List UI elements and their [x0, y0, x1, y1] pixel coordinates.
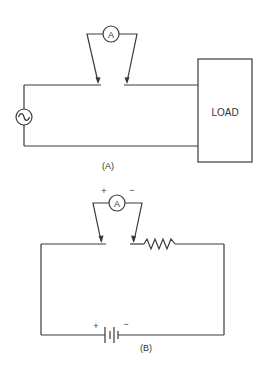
arrow-down-icon	[131, 236, 136, 244]
ammeter-b: A + −	[93, 185, 142, 243]
arrow-down-icon	[96, 77, 101, 84]
ammeter-a-left-lead	[87, 34, 103, 82]
circuit-a: LOAD A (A)	[16, 26, 252, 171]
caption-a: (A)	[102, 161, 114, 171]
arrow-down-icon	[125, 77, 130, 84]
caption-b: (B)	[140, 343, 152, 353]
circuit-b: + − A + − (B)	[41, 185, 224, 353]
ammeter-a-label: A	[108, 30, 114, 40]
ammeter-b-label: A	[114, 199, 120, 209]
ammeter-minus-label: −	[129, 185, 134, 195]
load-label: LOAD	[211, 107, 238, 118]
ammeter-a: A	[87, 26, 137, 84]
resistor-icon	[144, 239, 175, 249]
battery-minus-label: −	[123, 319, 128, 329]
ammeter-plus-label: +	[101, 186, 106, 196]
ammeter-b-left-lead	[93, 203, 109, 241]
arrow-down-icon	[99, 236, 104, 244]
ac-source-icon	[16, 109, 32, 125]
ammeter-a-right-lead	[119, 34, 137, 82]
ammeter-b-right-lead	[125, 203, 142, 241]
battery-icon	[105, 327, 118, 343]
circuit-diagrams: LOAD A (A)	[0, 0, 266, 366]
battery-plus-label: +	[93, 321, 98, 331]
